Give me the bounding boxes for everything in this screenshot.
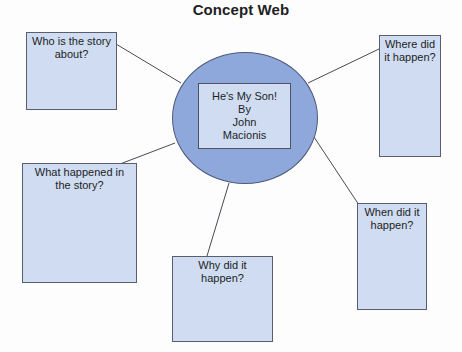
why-question: Why did it happen? [198, 259, 246, 284]
what-box: What happened in the story? [22, 163, 137, 283]
author-first-name: John [233, 116, 257, 129]
connector-who [116, 44, 181, 83]
connector-what [120, 143, 175, 164]
when-box: When did it happen? [357, 203, 427, 310]
connector-why [207, 183, 229, 256]
who-box: Who is the story about? [26, 32, 117, 110]
connector-when [314, 137, 359, 205]
book-title: He's My Son! [212, 90, 277, 103]
author-last-name: Macionis [223, 129, 266, 142]
by-label: By [238, 103, 251, 116]
connector-where [308, 49, 379, 83]
why-box: Why did it happen? [172, 256, 273, 342]
center-topic-box: He's My Son! By John Macionis [198, 83, 291, 149]
who-question: Who is the story about? [32, 35, 111, 60]
where-box: Where did it happen? [379, 35, 441, 157]
where-question: Where did it happen? [384, 38, 435, 63]
what-question: What happened in the story? [35, 166, 124, 191]
when-question: When did it happen? [364, 206, 419, 231]
